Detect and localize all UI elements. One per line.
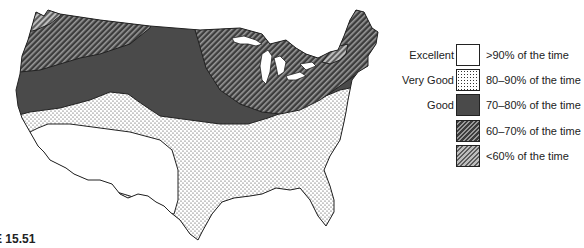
legend-swatch-hatch-dark bbox=[456, 120, 480, 142]
legend-rating: Excellent bbox=[409, 49, 454, 61]
legend-swatch-solid bbox=[456, 94, 480, 116]
legend-description: 80–90% of the time bbox=[486, 74, 581, 86]
legend-rating: Good bbox=[427, 99, 454, 111]
legend-item-very-good: Very Good 80–90% of the time bbox=[400, 69, 584, 93]
legend-description: 60–70% of the time bbox=[486, 125, 581, 137]
legend-description: 70–80% of the time bbox=[486, 99, 581, 111]
legend-item-under-60: <60% of the time bbox=[400, 145, 584, 169]
legend-rating: Very Good bbox=[402, 74, 454, 86]
legend-item-good: Good 70–80% of the time bbox=[400, 94, 584, 118]
legend-swatch-hatch-light bbox=[456, 145, 480, 167]
legend-swatch-dots bbox=[456, 69, 480, 91]
legend-item-60-70: 60–70% of the time bbox=[400, 120, 584, 144]
legend-description: >90% of the time bbox=[486, 49, 569, 61]
legend-item-excellent: Excellent >90% of the time bbox=[400, 44, 584, 68]
legend-swatch-blank bbox=[456, 44, 480, 66]
figure-label: E 15.51 bbox=[0, 232, 35, 246]
us-map bbox=[0, 0, 420, 248]
legend-description: <60% of the time bbox=[486, 150, 569, 162]
